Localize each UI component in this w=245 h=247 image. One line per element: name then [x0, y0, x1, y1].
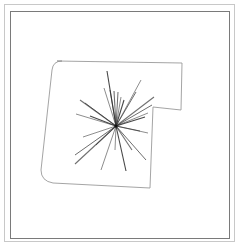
scan-ray — [90, 116, 116, 126]
scan-ray — [116, 97, 154, 126]
scan-origin — [114, 124, 117, 127]
scan-ray — [83, 126, 116, 137]
scan-ray — [85, 103, 116, 126]
scan-rays — [75, 71, 154, 171]
map-canvas — [0, 0, 245, 247]
scan-ray — [116, 126, 146, 160]
scan-ray — [75, 126, 116, 155]
